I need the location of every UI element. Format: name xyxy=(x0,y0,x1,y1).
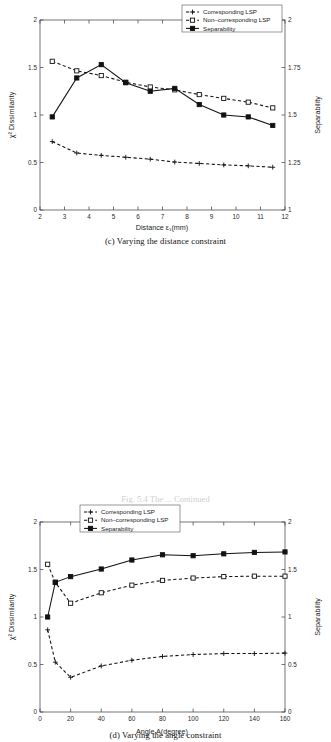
marker-square-open xyxy=(99,73,103,77)
series-line xyxy=(48,630,285,677)
y2-tick-label: 1 xyxy=(288,613,292,620)
marker-plus xyxy=(74,151,79,156)
caption-panel-c: (c) Varying the distance constraint xyxy=(0,236,331,246)
x-tick-label: 3 xyxy=(63,213,67,220)
marker-square-filled xyxy=(271,123,275,127)
y-tick-label: 2 xyxy=(33,16,37,23)
y-tick-label: 1 xyxy=(33,613,37,620)
chart-d-svg: 02040608010012014016000.511.5200.511.52 … xyxy=(0,502,331,742)
y2-axis-title-d: Separability xyxy=(313,598,322,636)
axis-ticks-c: 2345678910111200.511.5211.251.51.752 xyxy=(28,16,301,220)
marker-square-filled xyxy=(130,558,134,562)
x-tick-label: 5 xyxy=(112,213,116,220)
marker-plus xyxy=(129,658,134,663)
legend-d[interactable]: Corresponding LSPNon–corresponding LSPSe… xyxy=(80,505,180,532)
marker-square-open xyxy=(271,106,275,110)
x-tick-label: 9 xyxy=(210,213,214,220)
marker-plus xyxy=(283,651,288,656)
y2-axis-title-c: Separability xyxy=(313,96,322,134)
marker-square-filled xyxy=(75,76,79,80)
marker-plus xyxy=(270,165,275,170)
series-group-d xyxy=(45,550,287,680)
x-tick-label: 160 xyxy=(280,715,291,722)
marker-square-filled xyxy=(222,113,226,117)
x-tick-label: 8 xyxy=(185,213,189,220)
figure-caption-partial: Fig. 5.4 The ... Continued xyxy=(0,494,331,503)
series-line xyxy=(52,65,273,126)
marker-square-filled xyxy=(99,63,103,67)
marker-square-open xyxy=(99,591,103,595)
x-tick-label: 20 xyxy=(67,715,75,722)
y-tick-label: 1.5 xyxy=(28,64,37,71)
marker-square-filled xyxy=(69,575,73,579)
x-tick-label: 7 xyxy=(161,213,165,220)
marker-square-open xyxy=(46,562,50,566)
x-tick-label: 120 xyxy=(218,715,229,722)
marker-square-open xyxy=(197,92,201,96)
x-tick-label: 140 xyxy=(249,715,260,722)
marker-square-open xyxy=(222,575,226,579)
x-tick-label: 2 xyxy=(38,213,42,220)
marker-square-filled xyxy=(88,526,92,530)
legend-label: Separability xyxy=(203,25,236,32)
marker-square-open xyxy=(69,601,73,605)
marker-plus xyxy=(99,664,104,669)
axis-ticks-d: 02040608010012014016000.511.5200.511.52 xyxy=(28,518,297,722)
series-line xyxy=(48,552,285,617)
legend-c[interactable]: Corresponding LSPNon–corresponding LSPSe… xyxy=(182,5,282,32)
marker-square-filled xyxy=(246,115,250,119)
marker-square-open xyxy=(191,576,195,580)
x-tick-label: 60 xyxy=(128,715,136,722)
legend-label: Non–corresponding LSP xyxy=(101,516,168,523)
marker-square-open xyxy=(130,583,134,587)
axes-frame-d xyxy=(40,522,285,712)
marker-square-filled xyxy=(173,86,177,90)
marker-plus xyxy=(160,654,165,659)
y2-tick-label: 2 xyxy=(288,16,292,23)
y2-tick-label: 0 xyxy=(288,708,292,715)
x-tick-label: 12 xyxy=(281,213,289,220)
x-tick-label: 40 xyxy=(98,715,106,722)
marker-square-open xyxy=(160,578,164,582)
marker-square-filled xyxy=(46,615,50,619)
marker-square-open xyxy=(222,96,226,100)
marker-plus xyxy=(172,160,177,165)
x-tick-label: 80 xyxy=(159,715,167,722)
marker-plus xyxy=(221,162,226,167)
marker-plus xyxy=(252,651,257,656)
marker-plus xyxy=(45,627,50,632)
x-tick-label: 4 xyxy=(87,213,91,220)
y-axis-title-c: χ² Dissimilarity xyxy=(7,91,16,138)
legend-label: Non–corresponding LSP xyxy=(203,16,270,23)
marker-square-filled xyxy=(190,26,194,30)
panel-c: 2345678910111200.511.5211.251.51.752 Dis… xyxy=(0,0,331,252)
marker-square-filled xyxy=(222,552,226,556)
marker-plus xyxy=(148,157,153,162)
y-tick-label: 0.5 xyxy=(28,661,37,668)
y2-tick-label: 0.5 xyxy=(288,661,297,668)
series-line xyxy=(48,564,285,603)
marker-square-filled xyxy=(53,580,57,584)
marker-square-filled xyxy=(99,567,103,571)
marker-square-open xyxy=(75,69,79,73)
x-tick-label: 10 xyxy=(232,213,240,220)
legend-label: Corresponding LSP xyxy=(101,508,155,515)
y2-tick-label: 2 xyxy=(288,518,292,525)
series-line xyxy=(52,61,273,108)
x-tick-label: 0 xyxy=(38,715,42,722)
x-tick-label: 100 xyxy=(188,715,199,722)
marker-plus xyxy=(191,652,196,657)
chart-c-svg: 2345678910111200.511.5211.251.51.752 Dis… xyxy=(0,0,331,235)
marker-square-open xyxy=(246,100,250,104)
marker-plus xyxy=(197,161,202,166)
y-axis-title-d: χ² Dissimilarity xyxy=(7,593,16,640)
y2-tick-label: 1.75 xyxy=(288,64,301,71)
x-tick-label: 6 xyxy=(136,213,140,220)
panel-d: 02040608010012014016000.511.5200.511.52 … xyxy=(0,252,331,495)
chart-c: 2345678910111200.511.5211.251.51.752 Dis… xyxy=(0,0,331,220)
marker-plus xyxy=(246,163,251,168)
marker-square-filled xyxy=(191,554,195,558)
marker-square-filled xyxy=(50,115,54,119)
marker-plus xyxy=(99,153,104,158)
